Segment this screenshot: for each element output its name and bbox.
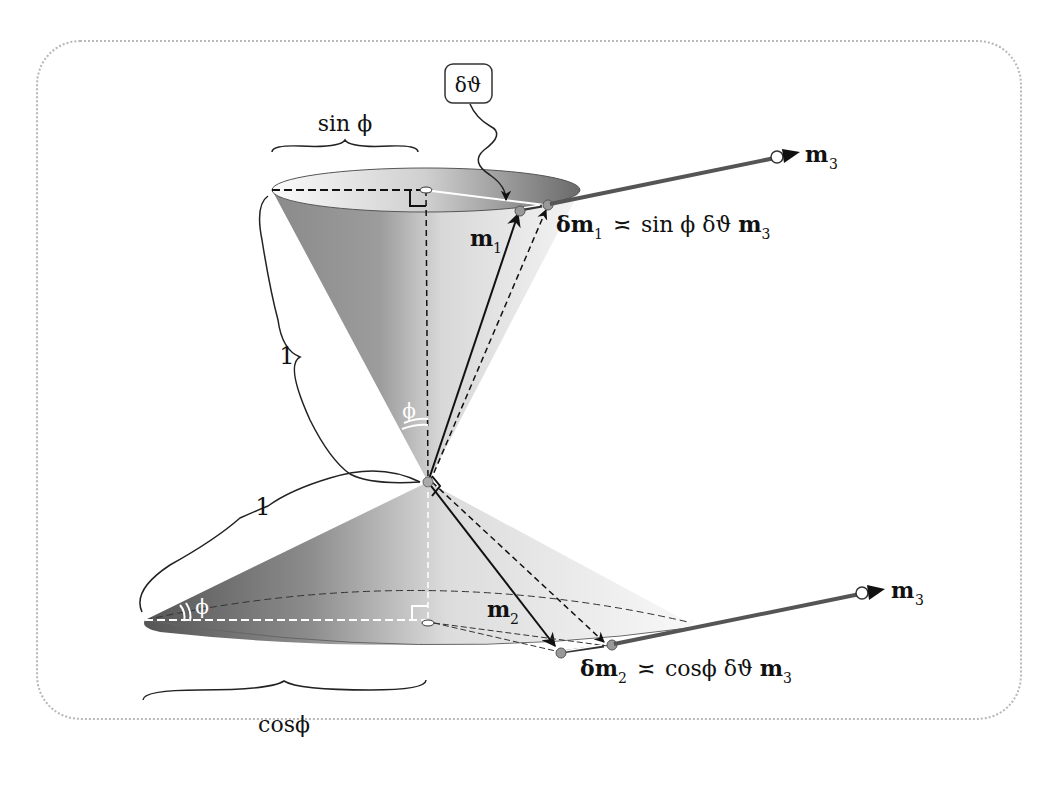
svg-text:δm2≍cosϕ δϑ m3: δm2≍cosϕ δϑ m3 bbox=[580, 655, 792, 686]
upper-length-label: 1 bbox=[279, 342, 294, 370]
phi-lower-label: ϕ bbox=[195, 595, 209, 619]
svg-text:δm1≍sin ϕ δϑ m3: δm1≍sin ϕ δϑ m3 bbox=[556, 211, 771, 242]
svg-text:m: m bbox=[470, 225, 493, 251]
svg-text:m: m bbox=[487, 596, 510, 622]
double-cone-diagram: δϑ sin ϕ cosϕ 1 1 ϕ ϕ m 1 m 2 m 3 m 3 δm… bbox=[0, 0, 1064, 788]
cos-phi-label: cosϕ bbox=[258, 712, 310, 737]
svg-text:m: m bbox=[891, 577, 914, 603]
svg-text:3: 3 bbox=[915, 592, 924, 608]
svg-text:2: 2 bbox=[510, 611, 519, 627]
lower-length-label: 1 bbox=[255, 493, 270, 521]
brace-sin-phi bbox=[272, 140, 418, 152]
sin-phi-label: sin ϕ bbox=[318, 111, 372, 136]
svg-text:1: 1 bbox=[493, 240, 502, 256]
m3-lower-label: m 3 bbox=[891, 577, 924, 608]
lower-cone bbox=[144, 482, 694, 645]
m3-upper-axis bbox=[550, 158, 775, 204]
dm2-equation: δm2≍cosϕ δϑ m3 bbox=[580, 655, 792, 686]
svg-text:m: m bbox=[805, 141, 828, 167]
svg-text:3: 3 bbox=[829, 156, 838, 172]
apex-point bbox=[423, 477, 433, 487]
dm1-equation: δm1≍sin ϕ δϑ m3 bbox=[556, 211, 771, 242]
m3-upper-label: m 3 bbox=[805, 141, 838, 172]
brace-cos-phi bbox=[143, 680, 426, 700]
delta-theta-label: δϑ bbox=[455, 73, 481, 97]
phi-upper-label: ϕ bbox=[402, 399, 416, 423]
